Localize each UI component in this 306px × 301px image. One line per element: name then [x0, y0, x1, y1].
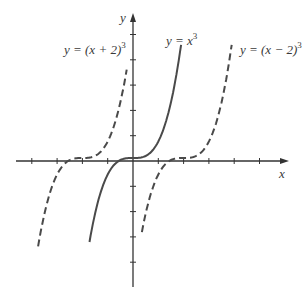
x-axis-label: x	[278, 166, 285, 181]
y-axis-arrow-icon	[130, 13, 136, 22]
label-exponent: 3	[297, 40, 302, 50]
curve-x-minus-2-cubed	[142, 45, 232, 232]
curve-labels: y = (x + 2)3 y = x3 y = (x − 2)3	[62, 31, 302, 57]
cubic-translation-diagram: x y y = (x + 2)3 y = x3 y = (x − 2)3	[0, 0, 306, 301]
label-text: y = (x + 2)	[62, 42, 121, 57]
label-x-minus-2-cubed: y = (x − 2)3	[238, 40, 302, 57]
axis-ticks	[32, 35, 260, 263]
label-x-plus-2-cubed: y = (x + 2)3	[62, 40, 126, 57]
label-exponent: 3	[193, 31, 198, 41]
label-exponent: 3	[121, 40, 126, 50]
curves	[38, 45, 232, 247]
curve-x-cubed	[90, 45, 182, 242]
x-axis-arrow-icon	[280, 158, 289, 164]
label-text: y = (x − 2)	[238, 42, 297, 57]
label-x-cubed: y = x3	[164, 31, 198, 48]
y-axis-label: y	[118, 10, 126, 25]
label-text: y = x	[164, 33, 193, 48]
